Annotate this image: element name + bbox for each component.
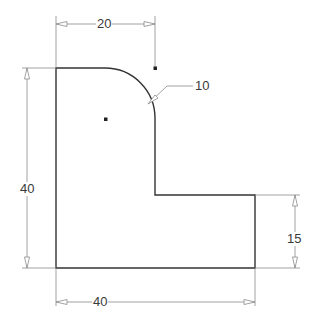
drawing-canvas xyxy=(0,0,319,330)
dimension-right-height[interactable]: 15 xyxy=(286,232,302,246)
dimension-top-width[interactable]: 20 xyxy=(96,17,112,31)
dimension-bottom-width[interactable]: 40 xyxy=(92,295,108,309)
part-center-point[interactable] xyxy=(104,118,108,122)
extension-lines xyxy=(22,16,300,306)
arrowheads xyxy=(25,22,298,305)
dimension-left-height[interactable]: 40 xyxy=(19,182,35,196)
dimension-fillet-radius[interactable]: 10 xyxy=(194,79,210,93)
fillet-center-point[interactable] xyxy=(154,67,158,71)
